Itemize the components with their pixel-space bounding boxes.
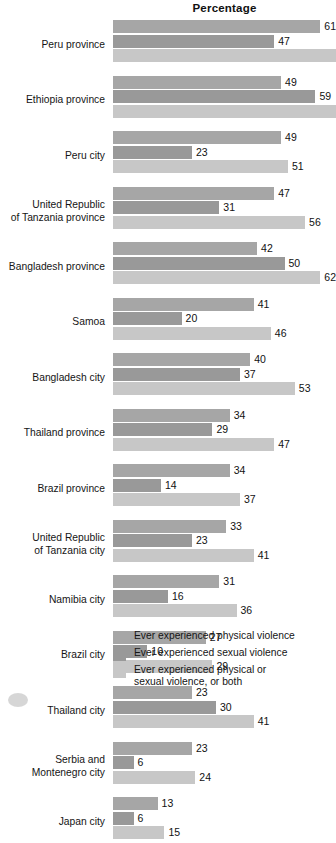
category-label: Serbia and Montenegro city xyxy=(0,754,105,779)
bar-value-label: 62 xyxy=(320,271,336,284)
bar-line: 23 xyxy=(113,534,336,547)
bar-group: 332341 xyxy=(113,520,336,569)
chart-row: Bangladesh province425062 xyxy=(0,239,336,295)
bar-segment xyxy=(113,479,161,492)
bar-line: 31 xyxy=(113,201,336,214)
bar-group: 425062 xyxy=(113,242,336,291)
legend-item: Ever experienced physical or sexual viol… xyxy=(113,664,336,689)
bar-value-label: 47 xyxy=(274,35,290,48)
bar-segment xyxy=(113,242,257,255)
bar-segment xyxy=(113,493,240,506)
bar-line: 29 xyxy=(113,423,336,436)
bar-segment xyxy=(113,298,254,311)
corner-watermark xyxy=(8,693,28,707)
chart-title: Percentage xyxy=(113,2,336,14)
bar-segment xyxy=(113,826,164,839)
bar-value-label: 59 xyxy=(315,90,331,103)
bar-line: 40 xyxy=(113,353,336,366)
bar-value-label: 31 xyxy=(219,201,235,214)
bar-value-label: 33 xyxy=(226,520,242,533)
chart-row: Samoa412046 xyxy=(0,295,336,351)
bar-segment xyxy=(113,812,134,825)
bar-line: 30 xyxy=(113,701,336,714)
bar-segment xyxy=(113,604,237,617)
bar-value-label: 34 xyxy=(230,464,246,477)
bar-value-label: 15 xyxy=(164,826,180,839)
bar-line: 23 xyxy=(113,146,336,159)
legend-item: Ever experienced physical violence xyxy=(113,630,336,644)
bar-value-label: 61 xyxy=(320,20,336,33)
bar-line: 42 xyxy=(113,242,336,255)
legend-swatch xyxy=(113,665,126,678)
bar-segment xyxy=(113,701,216,714)
bar-value-label: 24 xyxy=(195,771,211,784)
bar-segment xyxy=(113,90,315,103)
bar-group: 6147 xyxy=(113,20,336,69)
bar-segment xyxy=(113,201,219,214)
bar-line: 47 xyxy=(113,35,336,48)
bar-line: 13 xyxy=(113,797,336,810)
bar-segment xyxy=(113,35,274,48)
bar-segment xyxy=(113,742,192,755)
bar-segment xyxy=(113,187,274,200)
bar-line xyxy=(113,49,336,62)
bar-segment xyxy=(113,49,336,62)
category-label: United Republic of Tanzania city xyxy=(0,532,105,557)
chart-row: Japan city13615 xyxy=(0,794,336,843)
bar-line: 33 xyxy=(113,520,336,533)
bar-group: 341437 xyxy=(113,464,336,513)
bar-line: 56 xyxy=(113,216,336,229)
chart-row: Peru province6147 xyxy=(0,17,336,73)
legend-swatch xyxy=(113,648,126,661)
bar-line: 49 xyxy=(113,131,336,144)
bar-line: 36 xyxy=(113,604,336,617)
chart-row: United Republic of Tanzania city332341 xyxy=(0,517,336,573)
bar-segment xyxy=(113,105,336,118)
legend-label: Ever experienced sexual violence xyxy=(126,647,287,659)
bar-segment xyxy=(113,797,158,810)
bar-segment xyxy=(113,382,295,395)
bar-line: 59 xyxy=(113,90,336,103)
bar-group: 342947 xyxy=(113,409,336,458)
bar-segment xyxy=(113,271,320,284)
bar-value-label: 41 xyxy=(254,298,270,311)
chart-row: Brazil province341437 xyxy=(0,461,336,517)
bar-segment xyxy=(113,590,168,603)
bar-value-label: 49 xyxy=(281,76,297,89)
bar-value-label: 20 xyxy=(182,312,198,325)
legend-item: Ever experienced sexual violence xyxy=(113,647,336,661)
bar-line: 37 xyxy=(113,368,336,381)
bar-segment xyxy=(113,549,254,562)
bar-segment xyxy=(113,534,192,547)
bar-line: 20 xyxy=(113,312,336,325)
bar-value-label: 34 xyxy=(230,409,246,422)
category-label: Bangladesh city xyxy=(0,372,105,384)
bar-value-label: 13 xyxy=(158,797,174,810)
category-label: Japan city xyxy=(0,816,105,828)
bar-segment xyxy=(113,312,182,325)
bar-segment xyxy=(113,520,226,533)
category-label: Ethiopia province xyxy=(0,94,105,106)
bar-line: 41 xyxy=(113,549,336,562)
bar-value-label: 40 xyxy=(250,353,266,366)
category-label: United Republic of Tanzania province xyxy=(0,199,105,224)
bar-segment xyxy=(113,216,305,229)
bar-group: 473156 xyxy=(113,187,336,236)
bar-line: 50 xyxy=(113,257,336,270)
bar-line: 61 xyxy=(113,20,336,33)
bar-value-label: 53 xyxy=(295,382,311,395)
bar-segment xyxy=(113,756,134,769)
legend-label: Ever experienced physical or sexual viol… xyxy=(126,664,266,689)
bar-segment xyxy=(113,20,320,33)
chart-row: Bangladesh city403753 xyxy=(0,350,336,406)
bar-value-label: 37 xyxy=(240,368,256,381)
bar-value-label: 23 xyxy=(192,742,208,755)
bar-value-label: 36 xyxy=(237,604,253,617)
category-label: Bangladesh province xyxy=(0,261,105,273)
bar-group: 311636 xyxy=(113,575,336,624)
bar-line: 53 xyxy=(113,382,336,395)
bar-value-label: 46 xyxy=(271,327,287,340)
bar-segment xyxy=(113,76,281,89)
bar-line: 15 xyxy=(113,826,336,839)
